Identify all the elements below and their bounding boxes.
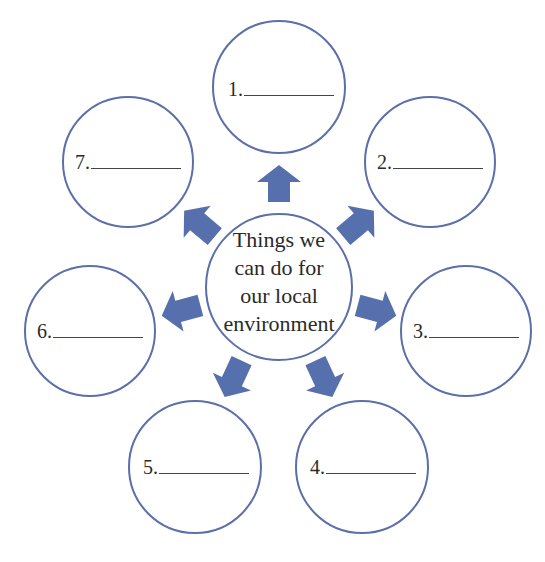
item-3-blank[interactable]	[429, 319, 519, 338]
item-6-number: 6.	[37, 321, 52, 341]
center-line-4: environment	[206, 310, 352, 338]
arrow-left-icon	[156, 285, 206, 336]
item-6: 6.	[37, 319, 143, 341]
arrow-right-icon	[352, 285, 402, 336]
arrow-down-left-icon	[206, 352, 261, 406]
item-1-blank[interactable]	[244, 77, 334, 96]
item-5-blank[interactable]	[159, 455, 249, 474]
center-line-2: can do for	[206, 254, 352, 282]
item-4: 4.	[310, 455, 416, 477]
item-5-number: 5.	[143, 457, 158, 477]
item-1: 1.	[228, 77, 334, 99]
item-6-blank[interactable]	[53, 319, 143, 338]
center-topic: Things we can do for our local environme…	[206, 226, 352, 338]
item-7-blank[interactable]	[91, 150, 181, 169]
item-3: 3.	[413, 319, 519, 341]
item-4-number: 4.	[310, 457, 325, 477]
item-4-blank[interactable]	[326, 455, 416, 474]
arrow-up-icon	[257, 165, 301, 202]
arrow-down-right-icon	[296, 352, 351, 406]
item-3-number: 3.	[413, 321, 428, 341]
item-7-number: 7.	[75, 152, 90, 172]
center-line-1: Things we	[206, 226, 352, 254]
item-2-number: 2.	[377, 152, 392, 172]
item-2-blank[interactable]	[393, 150, 483, 169]
center-line-3: our local	[206, 282, 352, 310]
item-2: 2.	[377, 150, 483, 172]
item-1-number: 1.	[228, 79, 243, 99]
item-5: 5.	[143, 455, 249, 477]
item-7: 7.	[75, 150, 181, 172]
